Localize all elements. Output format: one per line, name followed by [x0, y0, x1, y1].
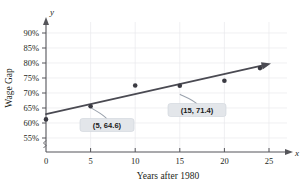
y-axis-symbol: y: [49, 7, 54, 17]
x-tick-label: 25: [265, 156, 274, 166]
data-point: [88, 104, 93, 109]
x-tick-label: 5: [88, 156, 92, 166]
y-tick-label: 55%: [23, 133, 39, 143]
wage-gap-scatter-chart: 90% 85% 80% 75% 70% 65% 60% 55% 0 5 10 1…: [0, 0, 303, 183]
x-tick-label: 10: [131, 156, 140, 166]
y-tick-label: 85%: [23, 43, 39, 53]
annotation-callout-1: (5, 64.6): [80, 119, 134, 132]
x-tick-label: 15: [176, 156, 185, 166]
x-tick-labels: 0 5 10 15 20 25: [44, 156, 273, 166]
data-points: [44, 66, 263, 122]
x-axis-symbol: x: [294, 148, 299, 158]
y-tick-label: 65%: [23, 103, 39, 113]
data-point: [178, 84, 183, 89]
x-tick-label: 0: [44, 156, 48, 166]
x-axis: [46, 149, 293, 155]
y-tick-label: 70%: [23, 88, 39, 98]
x-axis-title: Years after 1980: [137, 171, 200, 181]
y-tick-label: 75%: [23, 73, 39, 83]
chart-canvas: 90% 85% 80% 75% 70% 65% 60% 55% 0 5 10 1…: [0, 0, 303, 183]
annotation-label: (15, 71.4): [181, 106, 214, 115]
y-tick-labels: 90% 85% 80% 75% 70% 65% 60% 55%: [23, 28, 39, 143]
data-point: [258, 66, 263, 71]
x-tick-label: 20: [220, 156, 229, 166]
annotation-label: (5, 64.6): [93, 121, 122, 130]
y-axis-title: Wage Gap: [4, 68, 14, 108]
y-tick-label: 80%: [23, 58, 39, 68]
annotation-callout-2: (15, 71.4): [168, 104, 226, 117]
data-point: [222, 78, 227, 83]
y-tick-marks: [42, 33, 46, 138]
y-tick-label: 90%: [23, 28, 39, 38]
y-tick-label: 60%: [23, 118, 39, 128]
y-axis: [43, 17, 49, 152]
trend-line: [46, 62, 271, 114]
data-point: [133, 83, 138, 88]
data-point: [44, 117, 49, 122]
x-tick-marks: [91, 148, 269, 152]
